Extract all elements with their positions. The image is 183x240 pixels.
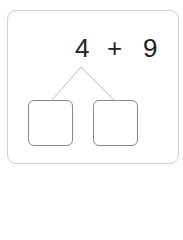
answer-box-right[interactable] (93, 100, 138, 146)
answer-box-left[interactable] (28, 100, 73, 146)
